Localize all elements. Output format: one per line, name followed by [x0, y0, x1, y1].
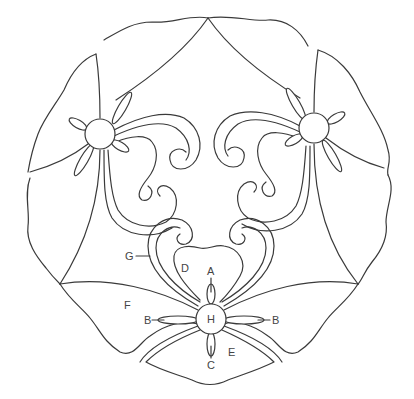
label-g: G [125, 250, 134, 262]
left-scroll-motifs [104, 114, 200, 234]
label-a: A [207, 265, 215, 277]
label-d: D [181, 262, 189, 274]
label-h: H [207, 313, 215, 325]
right-scroll-motifs [214, 112, 310, 231]
label-e: E [228, 346, 235, 358]
label-f: F [124, 299, 131, 311]
right-flower-center [299, 113, 329, 143]
quilt-flower-pattern: A B B C D E F G H [0, 0, 414, 399]
label-b-left: B [144, 314, 151, 326]
label-b-right: B [272, 314, 279, 326]
left-flower-center [85, 119, 115, 149]
left-flower [67, 90, 134, 177]
label-c: C [207, 359, 215, 371]
